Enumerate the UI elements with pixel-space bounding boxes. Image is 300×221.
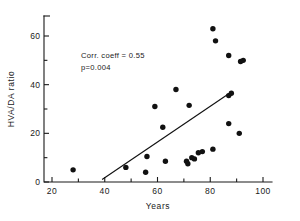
data-point	[173, 87, 178, 92]
data-point	[144, 154, 149, 159]
x-tick-label: 20	[47, 186, 57, 196]
data-point	[186, 103, 191, 108]
x-axis-title: Years	[146, 201, 170, 211]
scatter-plot-figure: 020406020406080100 Corr. coeff = 0.55p=0…	[0, 0, 300, 221]
data-point	[152, 104, 157, 109]
x-tick-label: 100	[255, 186, 270, 196]
annotation-line: Corr. coeff = 0.55	[81, 51, 145, 60]
data-point	[200, 149, 205, 154]
data-point	[163, 159, 168, 164]
plot-canvas: 020406020406080100 Corr. coeff = 0.55p=0…	[0, 0, 300, 221]
fit-line	[102, 92, 231, 180]
tick-marks	[44, 36, 263, 182]
x-tick-label: 40	[100, 186, 110, 196]
axis-lines	[44, 16, 272, 182]
x-tick-label: 80	[205, 186, 215, 196]
y-tick-label: 20	[30, 128, 40, 138]
statistics-annotation: Corr. coeff = 0.55p=0.004	[81, 51, 145, 72]
y-tick-label: 40	[30, 80, 40, 90]
data-point	[210, 146, 215, 151]
data-point	[241, 58, 246, 63]
y-axis-title: HVA/DA ratio	[6, 71, 16, 128]
axes	[44, 16, 272, 182]
x-tick-label: 60	[152, 186, 162, 196]
tick-labels: 020406020406080100	[30, 31, 270, 196]
data-point	[70, 167, 75, 172]
data-point	[185, 161, 190, 166]
regression-line	[102, 92, 231, 180]
y-tick-label: 0	[35, 177, 40, 187]
data-point	[226, 53, 231, 58]
y-tick-label: 60	[30, 31, 40, 41]
data-point	[210, 26, 215, 31]
data-point	[143, 170, 148, 175]
data-point	[213, 38, 218, 43]
data-point	[160, 125, 165, 130]
data-point	[237, 131, 242, 136]
annotation-line: p=0.004	[81, 63, 111, 72]
data-point	[123, 165, 128, 170]
data-point	[192, 156, 197, 161]
axis-titles: YearsHVA/DA ratio	[6, 71, 170, 211]
data-point	[226, 121, 231, 126]
data-point	[229, 90, 234, 95]
